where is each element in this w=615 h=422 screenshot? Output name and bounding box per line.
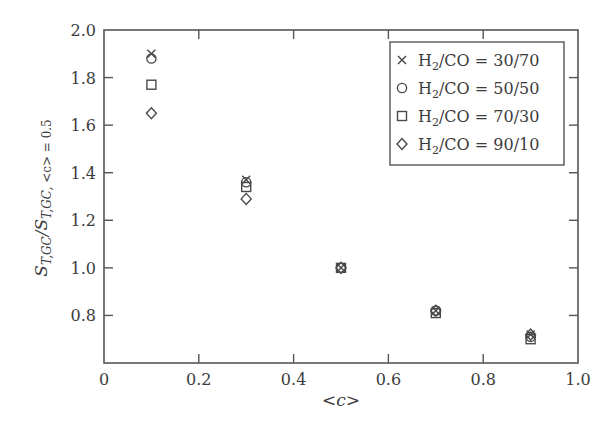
x-tick-label: 1.0 xyxy=(565,370,590,389)
data-point-diamond xyxy=(241,193,251,204)
legend: H2/CO = 30/70H2/CO = 50/50H2/CO = 70/30H… xyxy=(390,42,564,165)
y-tick-label: 1.2 xyxy=(71,211,96,230)
chart-canvas: 00.20.40.60.81.0 0.81.01.21.41.61.82.0 H… xyxy=(0,0,615,422)
legend-item: H2/CO = 50/50 xyxy=(397,79,539,101)
svg-text:ST,GC/ST,GC, <c> = 0.5: ST,GC/ST,GC, <c> = 0.5 xyxy=(31,119,54,277)
data-point-square xyxy=(147,80,156,89)
y-axis-title-condition: <c> = 0.5 xyxy=(40,119,54,183)
y-axis-title-sub1: T,GC xyxy=(40,236,54,265)
y-tick-label: 1.0 xyxy=(71,259,96,278)
x-axis-title: <c> xyxy=(322,390,360,410)
x-tick-label: 0.6 xyxy=(376,370,401,389)
y-tick-label: 0.8 xyxy=(71,306,96,325)
data-point-diamond xyxy=(146,108,156,119)
chart: 00.20.40.60.81.0 0.81.01.21.41.61.82.0 H… xyxy=(0,0,615,422)
legend-item: H2/CO = 90/10 xyxy=(397,135,539,157)
y-axis-title-main: S xyxy=(31,265,51,277)
x-tick-label: 0.8 xyxy=(470,370,495,389)
legend-item: H2/CO = 70/30 xyxy=(398,107,540,129)
data-point-circle xyxy=(147,54,156,63)
y-tick-labels: 0.81.01.21.41.61.82.0 xyxy=(71,21,96,325)
y-tick-label: 1.4 xyxy=(71,164,96,183)
x-tick-labels: 00.20.40.60.81.0 xyxy=(99,370,591,389)
y-axis-title-slash: /S xyxy=(31,219,51,238)
y-tick-label: 1.8 xyxy=(71,69,96,88)
y-axis-title-sub2: T,GC, xyxy=(40,183,54,219)
y-tick-label: 1.6 xyxy=(71,116,96,135)
y-axis-title: ST,GC/ST,GC, <c> = 0.5 xyxy=(31,119,54,277)
x-tick-label: 0.2 xyxy=(186,370,211,389)
y-tick-label: 2.0 xyxy=(71,21,96,40)
x-tick-label: 0 xyxy=(99,370,109,389)
legend-item: H2/CO = 30/70 xyxy=(398,51,539,73)
x-tick-label: 0.4 xyxy=(281,370,306,389)
